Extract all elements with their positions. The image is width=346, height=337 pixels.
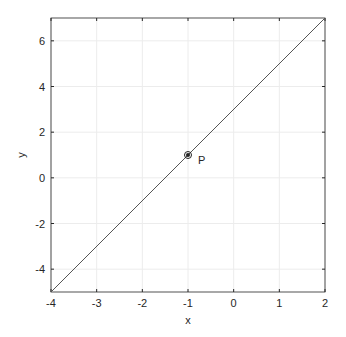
y-tick-label: -2 bbox=[35, 218, 45, 230]
y-tick-label: 0 bbox=[39, 172, 45, 184]
y-tick-label: 4 bbox=[39, 81, 45, 93]
x-tick-label: -1 bbox=[183, 297, 193, 309]
point-label: P bbox=[198, 154, 205, 166]
x-tick-label: 2 bbox=[322, 297, 328, 309]
y-tick-label: 2 bbox=[39, 126, 45, 138]
x-tick-label: -3 bbox=[92, 297, 102, 309]
x-axis-label: x bbox=[185, 314, 191, 326]
x-tick-label: -2 bbox=[137, 297, 147, 309]
chart: -4-3-2-1012-4-20246xyP bbox=[0, 0, 346, 337]
y-tick-label: -4 bbox=[35, 263, 45, 275]
point-dot bbox=[186, 153, 190, 157]
x-tick-label: 1 bbox=[276, 297, 282, 309]
x-tick-label: 0 bbox=[231, 297, 237, 309]
y-tick-label: 6 bbox=[39, 35, 45, 47]
x-tick-label: -4 bbox=[46, 297, 56, 309]
y-axis-label: y bbox=[15, 152, 27, 158]
